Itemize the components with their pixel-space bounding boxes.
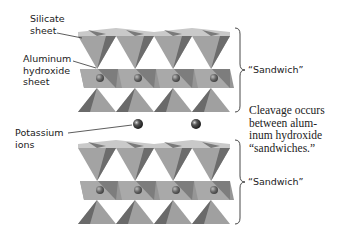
label-aluminum-hydroxide-sheet: Aluminum hydroxide sheet (23, 53, 71, 88)
leader-line-aluminum (73, 61, 96, 68)
sandwich-top-structure (78, 28, 234, 112)
leader-line-potassium (68, 125, 132, 133)
brace-bottom (235, 140, 245, 224)
label-sandwich-top: “Sandwich” (248, 64, 303, 76)
label-sandwich-bottom: “Sandwich” (248, 176, 303, 188)
label-cleavage-note: Cleavage occurs between alum- inum hydro… (249, 104, 325, 154)
label-potassium-ions: Potassium ions (15, 127, 64, 150)
brace-top (235, 28, 245, 112)
potassium-ion (133, 119, 143, 129)
potassium-ion (191, 119, 201, 129)
label-silicate-sheet: Silicate sheet (30, 13, 65, 36)
sandwich-bottom-structure (78, 140, 234, 224)
